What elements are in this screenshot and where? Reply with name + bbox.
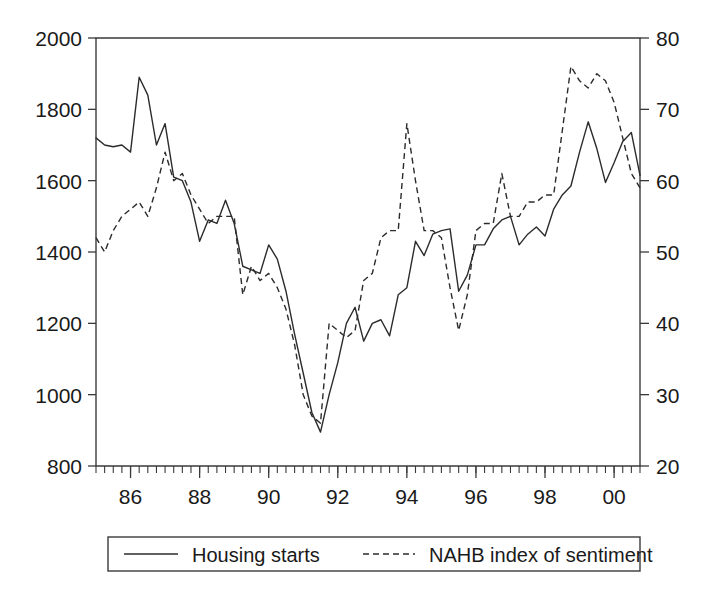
x-axis-tick-label-88: 88 [188, 485, 211, 508]
legend-label-nahb-index: NAHB index of sentiment [429, 544, 653, 566]
right-axis-tick-label-30: 30 [656, 384, 679, 407]
left-axis-tick-label-1200: 1200 [35, 312, 82, 335]
right-axis-tick-label-70: 70 [656, 98, 679, 121]
legend-label-housing-starts: Housing starts [192, 544, 320, 566]
x-axis-tick-label-94: 94 [395, 485, 419, 508]
x-axis-tick-label-90: 90 [257, 485, 280, 508]
left-axis-tick-label-2000: 2000 [35, 27, 82, 50]
right-axis-tick-label-40: 40 [656, 312, 679, 335]
right-axis-tick-label-20: 20 [656, 455, 679, 478]
right-axis-tick-label-60: 60 [656, 170, 679, 193]
left-axis-tick-label-1600: 1600 [35, 170, 82, 193]
x-axis-tick-label-92: 92 [326, 485, 349, 508]
dual-axis-line-chart: 800100012001400160018002000 203040506070… [0, 0, 722, 600]
left-axis-tick-label-1000: 1000 [35, 384, 82, 407]
left-axis-tick-label-1800: 1800 [35, 98, 82, 121]
x-axis-tick-label-86: 86 [119, 485, 142, 508]
x-axis-tick-label-00: 00 [602, 485, 625, 508]
x-axis-tick-label-98: 98 [533, 485, 556, 508]
left-axis-tick-label-1400: 1400 [35, 241, 82, 264]
x-axis-tick-label-96: 96 [464, 485, 487, 508]
right-axis-tick-label-80: 80 [656, 27, 679, 50]
left-axis-tick-label-800: 800 [47, 455, 82, 478]
chart-legend: Housing starts NAHB index of sentiment [108, 537, 653, 571]
chart-figure: 800100012001400160018002000 203040506070… [0, 0, 722, 600]
right-axis-tick-label-50: 50 [656, 241, 679, 264]
